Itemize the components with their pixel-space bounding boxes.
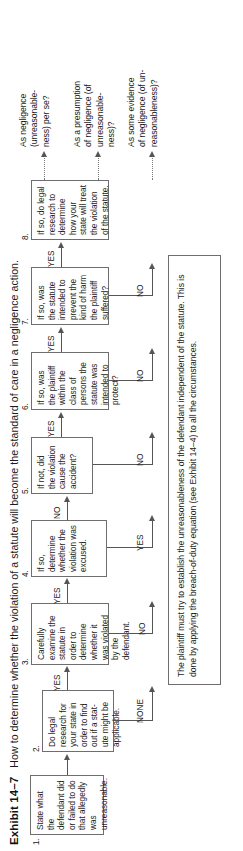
edge-label-yes-5-6: YES — [47, 420, 56, 437]
connector-3-to-summary-h — [152, 606, 153, 634]
arrowhead-2-to-3 — [64, 666, 70, 672]
node-number-3: 3. — [20, 658, 30, 665]
connector-8-to-outcome-3 — [152, 156, 153, 180]
arrowhead-outcome-3 — [149, 151, 155, 157]
arrowhead-outcome-2 — [95, 151, 101, 157]
edge-label-no-6: NO — [136, 370, 145, 382]
edge-label-none: NONE — [136, 699, 145, 723]
connector-2-to-summary-h — [152, 691, 153, 721]
node-number-7: 7. — [20, 318, 30, 325]
connector-6-to-summary-v — [109, 380, 152, 381]
edge-label-yes-3-4: YES — [53, 587, 62, 604]
arrowhead-5-to-6 — [58, 412, 64, 418]
connector-2-to-summary-v — [114, 720, 152, 721]
exhibit-title: How to determine whether the violation o… — [8, 260, 20, 768]
connector-5-to-summary-h — [152, 437, 153, 465]
arrowhead-4-to-5 — [64, 496, 70, 502]
flow-node-7[interactable]: If so, was the statute intended to preve… — [31, 267, 109, 325]
node-number-6: 6. — [20, 403, 30, 410]
arrowhead-1-to-2 — [64, 754, 70, 760]
flow-node-5[interactable]: If not, did the violation cause the acci… — [31, 437, 93, 494]
arrowhead-2-to-summary — [149, 686, 155, 692]
connector-7-to-summary-h — [152, 268, 153, 296]
node-number-8: 8. — [20, 233, 30, 240]
outcome-negligence-per-se: As negligence (unreasonable-ness) per se… — [18, 73, 52, 147]
exhibit-sheet: Exhibit 14–7 How to determine whether th… — [0, 0, 243, 851]
flow-node-6[interactable]: If so, was the plaintiff within the clas… — [31, 352, 109, 410]
outcome-presumption-of-negligence: As a presumption of negligence (of unrea… — [72, 73, 118, 147]
edge-label-yes-7-8: YES — [47, 250, 56, 267]
connector-4-to-summary-h — [152, 520, 153, 548]
node-number-2: 2. — [31, 745, 41, 752]
flow-node-4[interactable]: If so, determine whether the violation w… — [31, 520, 107, 577]
connector-1-to-2 — [67, 759, 68, 775]
connector-8-to-outcome-2 — [98, 156, 99, 180]
connector-4-to-summary-v — [107, 547, 152, 548]
rotated-figure-canvas: Exhibit 14–7 How to determine whether th… — [0, 0, 243, 851]
connector-4-to-5 — [67, 501, 68, 520]
node-number-1: 1. — [31, 838, 41, 845]
connector-6-to-7 — [61, 332, 62, 352]
connector-3-to-4 — [67, 583, 68, 603]
edge-label-yes-6-7: YES — [47, 335, 56, 352]
flow-node-2[interactable]: Do legal research for your state in orde… — [42, 690, 114, 752]
edge-label-no-5: NO — [136, 454, 145, 466]
arrowhead-6-to-summary — [149, 348, 155, 354]
connector-2-to-3 — [67, 671, 68, 690]
summary-box[interactable]: The plaintiff must try to establish the … — [168, 255, 221, 685]
edge-label-yes-2-3: YES — [53, 674, 62, 691]
connector-7-to-summary-v — [109, 295, 152, 296]
connector-6-to-summary-h — [152, 353, 153, 381]
node-number-4: 4. — [20, 570, 30, 577]
connector-8-to-outcome-1 — [44, 156, 45, 180]
arrowhead-5-to-summary — [149, 432, 155, 438]
flow-node-3[interactable]: Carefully examine the statute in order t… — [31, 603, 109, 665]
arrowhead-outcome-1 — [41, 151, 47, 157]
arrowhead-6-to-7 — [58, 327, 64, 333]
node-number-5: 5. — [20, 487, 30, 494]
arrowhead-3-to-summary — [149, 601, 155, 607]
arrowhead-3-to-4 — [64, 578, 70, 584]
edge-label-no-7: NO — [136, 285, 145, 297]
arrowhead-4-to-summary — [149, 515, 155, 521]
exhibit-number: Exhibit 14–7 — [8, 777, 20, 845]
exhibit-heading: Exhibit 14–7 How to determine whether th… — [8, 260, 20, 845]
edge-label-no-3: NO — [138, 623, 147, 635]
connector-5-to-6 — [61, 417, 62, 437]
connector-7-to-8 — [61, 247, 62, 267]
arrowhead-7-to-summary — [149, 263, 155, 269]
edge-label-yes-4-summary: YES — [136, 534, 145, 551]
outcome-some-evidence-of-negligence: As some evidence of negligence (of un-re… — [126, 69, 160, 147]
flow-node-1[interactable]: State what the defendant did or failed t… — [30, 775, 104, 835]
flow-node-8[interactable]: If so, do legal research to determine ho… — [31, 180, 109, 240]
edge-label-no-4-5: NO — [53, 507, 62, 519]
arrowhead-7-to-8 — [58, 242, 64, 248]
